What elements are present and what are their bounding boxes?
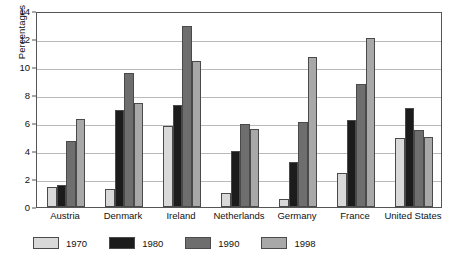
y-axis-tick-mark: [32, 68, 36, 69]
bar: [414, 130, 424, 207]
y-axis-tick-mark: [32, 96, 36, 97]
bar-series-container: [37, 13, 441, 207]
y-axis-tick-label: 6: [25, 119, 30, 129]
bar: [134, 103, 144, 207]
legend-item: 1998: [261, 237, 315, 249]
bar: [240, 124, 250, 207]
bar-group: [279, 13, 317, 207]
bar: [221, 193, 231, 207]
bar: [279, 199, 289, 207]
bar: [182, 26, 192, 207]
bar: [250, 129, 260, 207]
y-axis-tick-mark: [32, 180, 36, 181]
legend-label: 1990: [218, 238, 239, 249]
bar: [308, 57, 318, 207]
x-axis-category-label: United States: [384, 210, 441, 222]
bar-group: [47, 13, 85, 207]
bar-group: [163, 13, 201, 207]
y-axis-tick-label: 12: [19, 35, 30, 45]
bar: [298, 122, 308, 207]
legend-label: 1998: [294, 238, 315, 249]
legend-label: 1970: [66, 238, 87, 249]
bar: [105, 189, 115, 207]
y-axis-tick-mark: [32, 152, 36, 153]
bar: [405, 108, 415, 207]
x-axis-category-label: Ireland: [166, 210, 195, 222]
chart-legend: 1970198019901998: [33, 234, 338, 252]
y-axis-tick-label: 0: [25, 203, 30, 213]
legend-swatch: [261, 237, 287, 249]
y-axis-tick-label: 4: [25, 147, 30, 157]
legend-item: 1990: [185, 237, 239, 249]
legend-item: 1980: [109, 237, 163, 249]
legend-swatch: [109, 237, 135, 249]
bar: [356, 84, 366, 207]
bar: [347, 120, 357, 207]
legend-swatch: [33, 237, 59, 249]
y-axis-tick-mark: [32, 124, 36, 125]
bar: [395, 138, 405, 207]
plot-area: [36, 12, 442, 208]
legend-swatch: [185, 237, 211, 249]
y-axis-tick-mark: [32, 40, 36, 41]
bar-group: [337, 13, 375, 207]
bar: [192, 61, 202, 207]
y-axis-tick-label: 8: [25, 91, 30, 101]
bar: [173, 105, 183, 207]
bar: [124, 73, 134, 207]
bar: [289, 162, 299, 207]
x-axis-category-label: Denmark: [104, 210, 143, 222]
y-axis-tick-label: 10: [19, 63, 30, 73]
bar-group: [105, 13, 143, 207]
x-axis-category-label: Austria: [50, 210, 80, 222]
bar: [163, 126, 173, 207]
bar: [66, 141, 76, 207]
x-axis-category-label: Netherlands: [213, 210, 264, 222]
y-axis-tick-label: 14: [19, 7, 30, 17]
bar: [424, 137, 434, 207]
bar-chart: Percentages 02468101214 AustriaDenmarkIr…: [0, 0, 453, 258]
y-axis-tick-mark: [32, 208, 36, 209]
bar: [76, 119, 86, 207]
x-axis-category-labels: AustriaDenmarkIrelandNetherlandsGermanyF…: [36, 210, 442, 224]
x-axis-category-label: Germany: [277, 210, 316, 222]
bar: [57, 185, 67, 207]
bar: [115, 110, 125, 207]
x-axis-category-label: France: [340, 210, 370, 222]
bar: [337, 173, 347, 207]
bar: [47, 187, 57, 207]
y-axis-tick-label: 2: [25, 175, 30, 185]
bar-group: [221, 13, 259, 207]
y-axis-tick-labels: 02468101214: [0, 12, 34, 208]
legend-item: 1970: [33, 237, 87, 249]
bar: [366, 38, 376, 207]
legend-label: 1980: [142, 238, 163, 249]
bar: [231, 151, 241, 207]
y-axis-tick-mark: [32, 12, 36, 13]
bar-group: [395, 13, 433, 207]
